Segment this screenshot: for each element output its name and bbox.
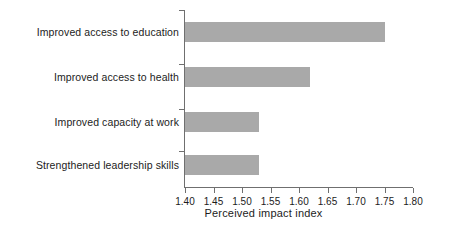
x-axis-tick <box>328 188 329 193</box>
x-axis-tick <box>385 188 386 193</box>
x-axis-title: Perceived impact index <box>0 207 453 219</box>
x-axis-tick <box>413 188 414 193</box>
bar-0 <box>185 22 385 42</box>
x-axis-tick <box>356 188 357 193</box>
category-label-1: Improved access to health <box>54 71 179 83</box>
x-axis-tick <box>185 188 186 193</box>
y-axis-tick <box>179 109 185 110</box>
x-axis-tick <box>271 188 272 193</box>
x-axis-tick <box>214 188 215 193</box>
y-axis-tick <box>179 10 185 11</box>
bar-chart: Improved access to education Improved ac… <box>0 0 453 236</box>
category-label-3: Strengthened leadership skills <box>36 159 179 171</box>
bar-1 <box>185 67 310 87</box>
bar-3 <box>185 155 259 175</box>
category-label-2: Improved capacity at work <box>55 116 179 128</box>
y-axis-tick <box>179 64 185 65</box>
x-axis-tick <box>299 188 300 193</box>
bar-2 <box>185 112 259 132</box>
x-axis-title-text: Perceived impact index <box>204 207 322 219</box>
y-axis-tick <box>179 151 185 152</box>
plot-area: 1.401.451.501.551.601.651.701.751.80 <box>185 10 413 187</box>
category-label-0: Improved access to education <box>37 26 179 38</box>
x-axis-tick <box>242 188 243 193</box>
